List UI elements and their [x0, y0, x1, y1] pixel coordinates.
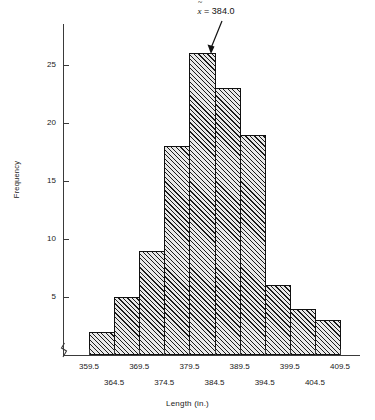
- y-tick-label: 20: [34, 118, 56, 127]
- median-annotation: x = 384.0: [160, 6, 272, 16]
- x-tick-label: 384.5: [192, 378, 238, 387]
- x-tick-label: 364.5: [91, 378, 137, 387]
- x-tick-label: 369.5: [116, 362, 162, 371]
- histogram-bar: [89, 332, 116, 355]
- x-tick-mark: [265, 349, 266, 356]
- x-tick-mark: [340, 349, 341, 356]
- x-tick-mark: [290, 349, 291, 356]
- x-tick-mark: [164, 349, 165, 356]
- x-tick-label: 394.5: [242, 378, 288, 387]
- annotation-arrow-icon: [196, 20, 226, 56]
- x-tick-label: 399.5: [267, 362, 313, 371]
- x-tick-mark: [189, 349, 190, 356]
- median-symbol: x: [198, 6, 202, 16]
- y-tick-label: 5: [34, 292, 56, 301]
- histogram-bar: [164, 146, 191, 355]
- histogram-bar: [215, 88, 242, 355]
- x-tick-mark: [215, 349, 216, 356]
- histogram-bar: [240, 135, 267, 355]
- bars-layer: 510152025359.5364.5369.5374.5379.5384.53…: [0, 0, 375, 420]
- x-tick-mark: [315, 349, 316, 356]
- y-tick-label: 10: [34, 234, 56, 243]
- x-tick-label: 374.5: [141, 378, 187, 387]
- y-tick-mark: [63, 181, 69, 182]
- y-tick-mark: [63, 65, 69, 66]
- histogram-chart: Frequency Length (in.) 510152025359.5364…: [0, 0, 375, 420]
- x-tick-mark: [139, 349, 140, 356]
- x-tick-label: 409.5: [317, 362, 363, 371]
- histogram-bar: [189, 53, 216, 355]
- y-tick-mark: [63, 239, 69, 240]
- histogram-bar: [290, 309, 317, 355]
- x-tick-mark: [240, 349, 241, 356]
- y-tick-label: 15: [34, 176, 56, 185]
- histogram-bar: [139, 251, 166, 355]
- histogram-bar: [315, 320, 342, 355]
- x-tick-label: 379.5: [166, 362, 212, 371]
- x-tick-label: 404.5: [292, 378, 338, 387]
- x-tick-mark: [114, 349, 115, 356]
- x-tick-label: 389.5: [217, 362, 263, 371]
- x-tick-mark: [89, 349, 90, 356]
- y-tick-label: 25: [34, 60, 56, 69]
- y-tick-mark: [63, 297, 69, 298]
- y-tick-mark: [63, 123, 69, 124]
- median-equals-value: = 384.0: [202, 6, 235, 16]
- histogram-bar: [265, 285, 292, 355]
- histogram-bar: [114, 297, 141, 355]
- x-tick-label: 359.5: [66, 362, 112, 371]
